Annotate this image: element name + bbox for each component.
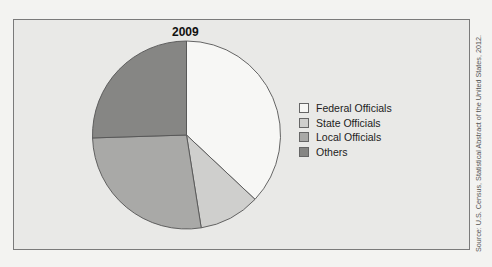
legend-item-local: Local Officials <box>299 130 392 145</box>
pie-slice-others <box>93 41 187 138</box>
legend-swatch <box>299 118 309 128</box>
legend-swatch <box>299 147 309 157</box>
pie-slice-local-officials <box>93 135 202 229</box>
legend-swatch <box>299 103 309 113</box>
source-note: Source: U.S. Census, Statistical Abstrac… <box>474 35 483 252</box>
legend-item-state: State Officials <box>299 116 392 131</box>
legend-swatch <box>299 132 309 142</box>
legend-item-federal: Federal Officials <box>299 101 392 116</box>
pie-chart <box>0 0 492 267</box>
legend-item-others: Others <box>299 145 392 160</box>
legend: Federal Officials State Officials Local … <box>299 101 392 159</box>
